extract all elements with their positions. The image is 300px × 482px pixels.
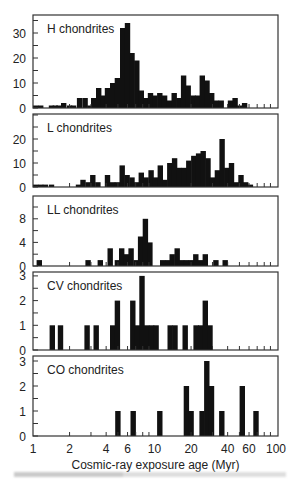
histogram-bar [50, 325, 55, 350]
histogram-bar [209, 93, 214, 108]
histogram-bar [37, 260, 42, 266]
histogram-bar [186, 86, 191, 109]
y-tick-label: 3 [19, 355, 26, 369]
histogram-bars [33, 139, 253, 187]
histogram-bar [110, 325, 115, 350]
y-tick-label: 3 [19, 269, 26, 283]
histogram-bar [85, 182, 90, 187]
histogram-bar [85, 260, 90, 266]
histogram-bar [168, 325, 173, 350]
histogram-bar [198, 260, 203, 266]
histogram-bar [223, 260, 228, 266]
histogram-bar [203, 254, 208, 266]
histogram-bar [105, 175, 110, 187]
y-tick-label: 1 [19, 319, 26, 333]
histogram-bar [195, 96, 200, 109]
histogram-bar [167, 163, 172, 187]
histogram-bar [172, 93, 177, 108]
chondrite-exposure-age-histograms: 0102030H chondrites01020L chondrites048L… [0, 0, 300, 482]
y-tick-label: 1 [19, 405, 26, 419]
histogram-bar [158, 165, 163, 187]
histogram-bar [98, 260, 103, 266]
histogram-bar [183, 325, 188, 350]
histogram-bar [162, 180, 167, 187]
histogram-bar [129, 177, 134, 187]
histogram-bar [108, 248, 113, 266]
x-tick-label: 40 [221, 442, 235, 456]
histogram-bar [240, 386, 245, 436]
histogram-bar [205, 158, 210, 187]
histogram-bar [120, 28, 125, 108]
histogram-bar [229, 163, 234, 187]
histogram-bar [219, 411, 224, 436]
y-tick-label: 4 [19, 236, 26, 250]
histogram-bar [143, 177, 148, 187]
y-tick-label: 2 [19, 294, 26, 308]
panel-co-chondrites: 0123CO chondrites [19, 355, 278, 444]
histogram-bar [96, 88, 101, 108]
y-tick-label: 10 [13, 77, 27, 91]
y-tick-label: 30 [13, 27, 27, 41]
histogram-bar [147, 242, 152, 266]
x-tick-label: 20 [184, 442, 198, 456]
panel-ll-chondrites: 048LL chondrites [19, 196, 278, 274]
histogram-bar [95, 182, 100, 187]
histogram-bar [207, 325, 212, 350]
histogram-bar [172, 158, 177, 187]
x-tick-label: 100 [266, 442, 286, 456]
histogram-bar [196, 153, 201, 187]
histogram-bar [115, 301, 120, 350]
histogram-bar [193, 325, 198, 350]
panel-h-chondrites: 0102030H chondrites [13, 15, 278, 116]
y-tick-label: 8 [19, 212, 26, 226]
x-axis-labels: 124610204060100 [30, 442, 287, 456]
histogram-bar [119, 248, 124, 266]
histogram-bar [181, 76, 186, 109]
histogram-bar [139, 276, 144, 350]
histogram-bar [201, 151, 206, 187]
y-tick-label: 20 [13, 133, 27, 147]
histogram-bar [115, 78, 120, 108]
histogram-bar [130, 301, 135, 350]
histogram-bar [214, 101, 219, 109]
panel-title: L chondrites [47, 121, 112, 135]
histogram-bar [176, 98, 181, 108]
histogram-bar [253, 411, 258, 436]
histogram-bar [215, 170, 220, 187]
panel-title: H chondrites [47, 22, 114, 36]
histogram-bar [234, 182, 239, 187]
panel-title: CO chondrites [47, 363, 124, 377]
histogram-bar [213, 260, 218, 266]
x-tick-label: 4 [103, 442, 110, 456]
histogram-bar [193, 254, 198, 266]
histogram-bar [170, 254, 175, 266]
histogram-bar [160, 260, 165, 266]
histogram-bar [200, 76, 205, 109]
histogram-bar [129, 53, 134, 108]
histogram-bar [191, 156, 196, 187]
histogram-bar [153, 325, 158, 350]
x-tick-label: 6 [124, 442, 131, 456]
histogram-bar [219, 139, 224, 187]
histogram-bar [232, 98, 237, 108]
histogram-bar [219, 101, 224, 109]
histogram-bar [152, 96, 157, 109]
histogram-bar [209, 386, 214, 436]
y-tick-label: 2 [19, 380, 26, 394]
histogram-bar [91, 98, 96, 108]
histogram-bar [153, 177, 158, 187]
histogram-bar [128, 248, 133, 266]
figure-caption-blurred [14, 472, 286, 477]
histogram-bar [110, 182, 115, 187]
histogram-bar [80, 180, 85, 187]
histogram-bar [138, 237, 143, 267]
y-tick-label: 20 [13, 52, 27, 66]
histogram-bar [58, 325, 63, 350]
x-tick-label: 10 [148, 442, 162, 456]
histogram-bars [37, 219, 228, 266]
x-tick-label: 60 [242, 442, 256, 456]
panel-title: LL chondrites [47, 203, 119, 217]
histogram-bar [110, 83, 115, 108]
x-axis-title: Cosmic-ray exposure age (Myr) [71, 458, 239, 472]
histogram-bar [157, 93, 162, 108]
